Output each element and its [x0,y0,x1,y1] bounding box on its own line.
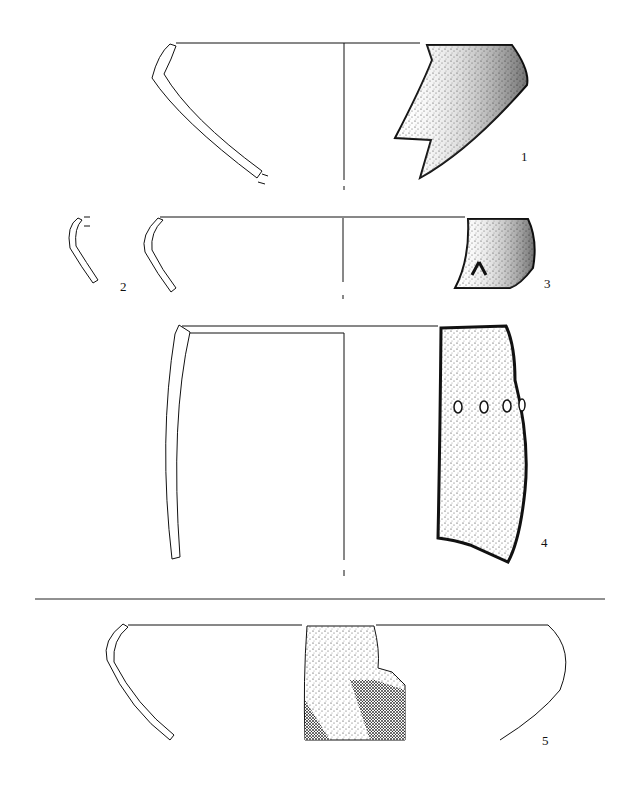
label-5: 5 [542,733,549,749]
vessel-5 [106,624,566,740]
pottery-plate [0,0,638,802]
label-1: 1 [521,149,528,165]
label-4: 4 [541,535,548,551]
vessel-1 [152,43,527,190]
label-2: 2 [120,279,127,295]
label-3: 3 [544,276,551,292]
vessel-3 [144,217,535,299]
vessel-4 [166,325,527,576]
vessel-2 [69,217,98,283]
